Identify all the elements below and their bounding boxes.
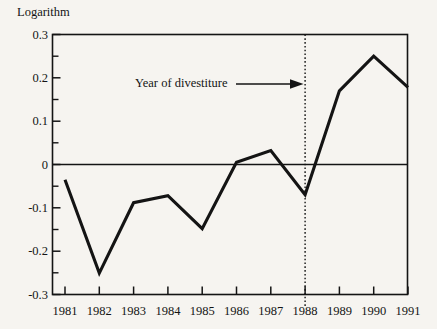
divestiture-annotation-label: Year of divestiture	[135, 77, 227, 90]
x-tick-label: 1991	[388, 305, 428, 318]
chart-figure: Logarithm	[0, 0, 437, 329]
x-axis-tick-labels: 1981 1982 1983 1984 1985 1986 1987 1988 …	[0, 0, 437, 329]
